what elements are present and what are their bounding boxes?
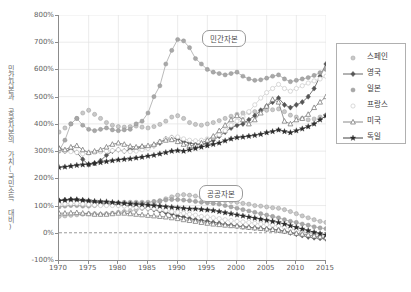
data-point bbox=[187, 138, 191, 142]
y-tick-mark bbox=[55, 206, 59, 207]
data-point bbox=[223, 129, 227, 133]
annotation-public-capital: 공공자본 bbox=[199, 185, 243, 202]
data-point bbox=[246, 133, 252, 138]
legend-item-독일[interactable]: 독일 bbox=[337, 127, 405, 143]
data-point bbox=[170, 209, 174, 213]
y-tick-mark bbox=[55, 97, 59, 98]
data-point bbox=[128, 150, 132, 154]
data-point bbox=[324, 227, 326, 231]
data-point bbox=[69, 150, 73, 154]
y-tick-label: 500% bbox=[24, 93, 54, 101]
data-point bbox=[187, 206, 193, 211]
x-tick-mark bbox=[295, 260, 296, 264]
data-point bbox=[199, 62, 203, 66]
data-point bbox=[294, 78, 298, 82]
data-point bbox=[59, 130, 61, 134]
y-tick-label: -100% bbox=[24, 256, 54, 264]
x-tick-label: 2015 bbox=[310, 264, 340, 272]
legend-item-스페인[interactable]: 스페인 bbox=[337, 47, 405, 63]
data-point bbox=[276, 82, 280, 86]
data-point bbox=[158, 122, 162, 126]
data-point bbox=[282, 208, 286, 212]
legend-label: 일본 bbox=[367, 82, 381, 93]
data-point bbox=[158, 199, 162, 203]
data-point bbox=[182, 39, 186, 43]
data-point bbox=[222, 138, 228, 143]
data-point bbox=[253, 78, 257, 82]
data-point bbox=[294, 220, 298, 224]
data-point bbox=[258, 216, 264, 221]
data-point bbox=[140, 125, 144, 129]
data-point bbox=[80, 147, 85, 152]
data-point bbox=[217, 202, 221, 206]
data-point bbox=[104, 126, 108, 130]
x-tick-label: 1985 bbox=[132, 264, 162, 272]
data-point bbox=[265, 90, 269, 94]
data-point bbox=[133, 155, 139, 160]
data-point bbox=[271, 108, 275, 112]
data-point bbox=[93, 129, 97, 133]
x-tick-mark bbox=[88, 260, 89, 264]
data-point bbox=[241, 201, 245, 205]
chart-legend: 스페인영국일본프랑스미국독일 bbox=[336, 43, 406, 144]
data-point bbox=[63, 126, 67, 130]
y-tick-mark bbox=[55, 15, 59, 16]
data-point bbox=[157, 151, 163, 156]
data-point bbox=[69, 122, 73, 126]
data-point bbox=[187, 199, 191, 203]
y-tick-mark bbox=[55, 69, 59, 70]
data-point bbox=[300, 222, 304, 226]
data-point bbox=[151, 152, 157, 157]
legend-item-일본[interactable]: 일본 bbox=[337, 79, 405, 95]
chart-figure: 민간자본과 공공자본의 가치(국민소득 대비) 800%700%600%500%… bbox=[0, 0, 411, 292]
data-point bbox=[294, 86, 298, 90]
data-point bbox=[270, 129, 276, 134]
data-point bbox=[312, 117, 316, 121]
data-point bbox=[306, 81, 310, 85]
legend-item-미국[interactable]: 미국 bbox=[337, 111, 405, 127]
data-point bbox=[312, 218, 316, 222]
legend-item-프랑스[interactable]: 프랑스 bbox=[337, 95, 405, 111]
legend-label: 스페인 bbox=[367, 50, 388, 61]
data-point bbox=[81, 111, 85, 115]
data-point bbox=[176, 114, 180, 118]
data-point bbox=[270, 97, 275, 102]
data-point bbox=[229, 117, 234, 122]
data-point bbox=[247, 209, 251, 213]
data-point bbox=[121, 156, 127, 161]
y-tick-label: 200% bbox=[24, 174, 54, 182]
data-point bbox=[300, 214, 304, 218]
data-point bbox=[276, 127, 282, 132]
data-point bbox=[205, 215, 209, 219]
data-point bbox=[87, 108, 91, 112]
data-point bbox=[110, 128, 114, 132]
x-tick-label: 2000 bbox=[221, 264, 251, 272]
data-point bbox=[228, 211, 234, 216]
data-point bbox=[241, 208, 245, 212]
legend-label: 미국 bbox=[367, 114, 381, 125]
data-point bbox=[246, 214, 252, 219]
legend-item-영국[interactable]: 영국 bbox=[337, 63, 405, 79]
data-point bbox=[271, 206, 275, 210]
data-point bbox=[104, 120, 108, 124]
data-point bbox=[98, 127, 102, 131]
data-point bbox=[193, 199, 197, 203]
data-point bbox=[282, 77, 286, 81]
data-point bbox=[324, 74, 326, 78]
data-point bbox=[217, 133, 221, 137]
data-point bbox=[211, 120, 215, 124]
data-point bbox=[229, 205, 233, 209]
data-point bbox=[210, 207, 216, 212]
data-point bbox=[193, 213, 197, 217]
data-point bbox=[306, 76, 310, 80]
data-point bbox=[140, 119, 144, 123]
y-tick-mark bbox=[55, 42, 59, 43]
data-point bbox=[271, 74, 275, 78]
data-point bbox=[253, 210, 257, 214]
data-point bbox=[265, 76, 269, 80]
data-point bbox=[75, 116, 79, 120]
data-point bbox=[265, 213, 269, 217]
data-point bbox=[222, 210, 228, 215]
data-point bbox=[312, 79, 316, 83]
x-tick-mark bbox=[236, 260, 237, 264]
